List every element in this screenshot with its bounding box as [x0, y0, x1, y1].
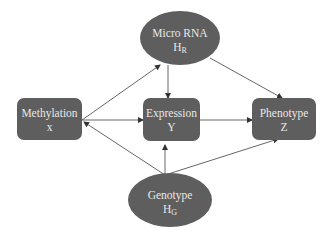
- edge-genotype-phenotype: [165, 139, 278, 175]
- edge-microrna-phenotype: [210, 58, 282, 98]
- methylation-symbol: x: [47, 121, 53, 133]
- node-microrna: Micro RNA HR: [140, 11, 220, 65]
- node-phenotype: Phenotype Z: [252, 98, 316, 140]
- node-expression: Expression Y: [143, 98, 200, 141]
- expression-label: Expression: [146, 107, 197, 120]
- node-genotype: Genotype HG: [128, 173, 212, 227]
- phenotype-symbol: Z: [280, 121, 287, 133]
- node-methylation: Methylation x: [17, 98, 82, 140]
- expression-symbol: Y: [167, 121, 176, 133]
- methylation-label: Methylation: [21, 107, 77, 120]
- phenotype-label: Phenotype: [260, 107, 309, 120]
- genotype-label: Genotype: [148, 189, 193, 202]
- diagram-canvas: Micro RNA HR Methylation x Expression Y …: [0, 0, 334, 235]
- microrna-label: Micro RNA: [152, 27, 208, 39]
